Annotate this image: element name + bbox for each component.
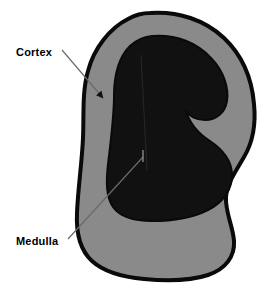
diagram-canvas: Cortex Medulla [0, 0, 264, 291]
kidney-diagram: Cortex Medulla [0, 0, 264, 291]
medulla-label: Medulla [16, 235, 59, 247]
cortex-label: Cortex [16, 46, 53, 58]
